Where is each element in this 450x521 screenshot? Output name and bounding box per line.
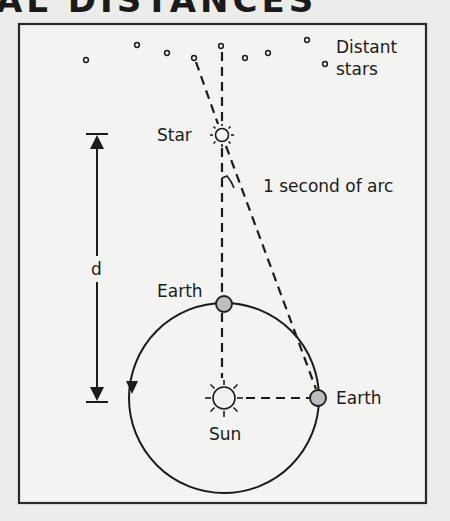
distant-star-icon bbox=[165, 51, 170, 56]
sun-label: Sun bbox=[209, 424, 241, 444]
earth-top-label: Earth bbox=[157, 281, 203, 301]
distant-star-icon bbox=[305, 38, 310, 43]
distance-label: d bbox=[91, 259, 102, 279]
distant-stars-label: Distant bbox=[336, 37, 398, 57]
earth-right-label: Earth bbox=[336, 388, 382, 408]
angle-label: 1 second of arc bbox=[263, 176, 393, 196]
star-label: Star bbox=[157, 125, 192, 145]
distant-stars-label-line2: stars bbox=[336, 59, 378, 79]
earth-top-icon bbox=[216, 296, 232, 312]
earth-right-icon bbox=[310, 390, 326, 406]
distant-star-icon bbox=[266, 51, 271, 56]
distant-star-icon bbox=[192, 56, 197, 61]
distant-star-icon bbox=[323, 62, 328, 67]
parallax-diagram: Distant stars Star 1 second of arc d Ear… bbox=[0, 0, 450, 521]
distant-star-icon bbox=[219, 44, 224, 49]
distant-star-icon bbox=[243, 56, 248, 61]
distant-star-icon bbox=[135, 43, 140, 48]
distant-star-icon bbox=[84, 58, 89, 63]
